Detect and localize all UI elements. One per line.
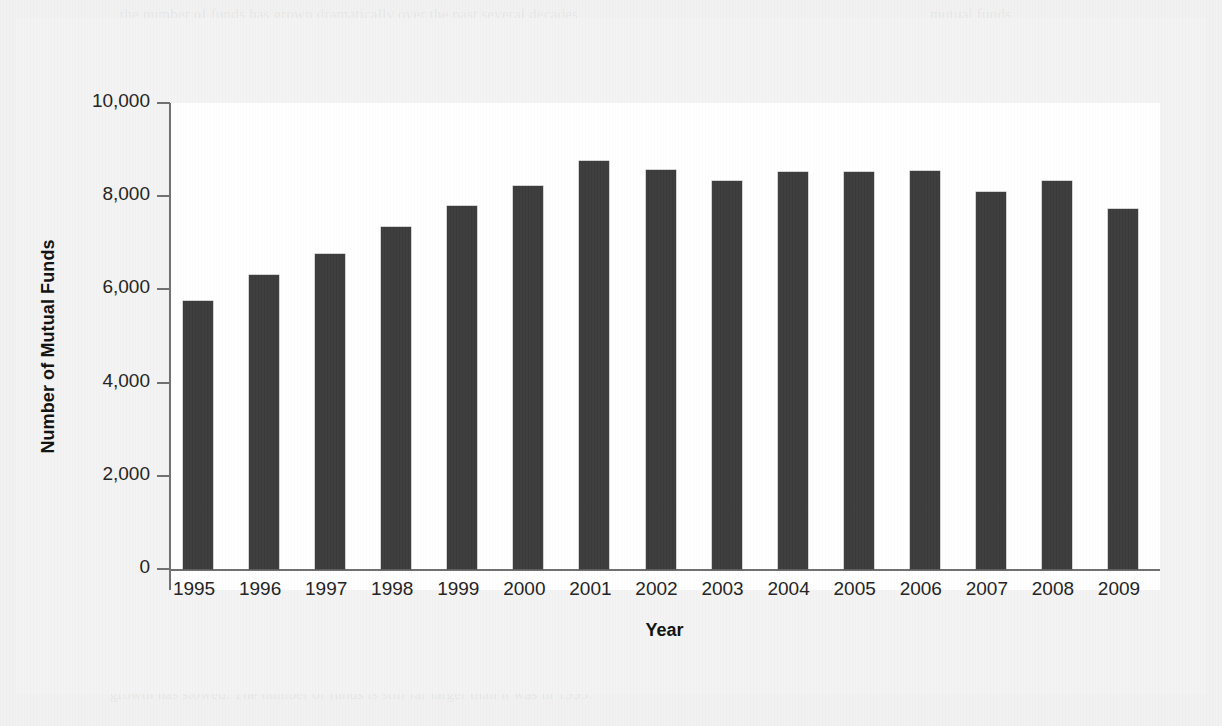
bar: [778, 172, 808, 569]
bars-container: [171, 103, 1160, 569]
bar: [249, 275, 279, 570]
y-axis-tick-label: 0: [26, 556, 150, 578]
x-axis-line: [169, 569, 1160, 571]
figure-panel: 02,0004,0006,0008,00010,000 199519961997…: [16, 18, 1206, 694]
bar: [712, 181, 742, 569]
bar: [646, 170, 676, 569]
x-axis-title: Year: [169, 620, 1160, 641]
bar-chart: 02,0004,0006,0008,00010,000 199519961997…: [16, 18, 1206, 694]
y-axis-title: Number of Mutual Funds: [38, 182, 59, 512]
bar: [381, 227, 411, 570]
x-axis-tick-label: 2009: [1079, 578, 1159, 600]
bar: [513, 186, 543, 569]
scanned-page: the number of funds has grown dramatical…: [0, 0, 1222, 726]
bar: [910, 171, 940, 569]
bar: [315, 254, 345, 569]
y-axis-tick-label: 10,000: [26, 90, 150, 112]
bar: [447, 206, 477, 569]
bar: [976, 192, 1006, 569]
bar: [1042, 181, 1072, 569]
bar: [844, 172, 874, 569]
bar: [579, 161, 609, 569]
bar: [183, 301, 213, 569]
bar: [1108, 209, 1138, 569]
